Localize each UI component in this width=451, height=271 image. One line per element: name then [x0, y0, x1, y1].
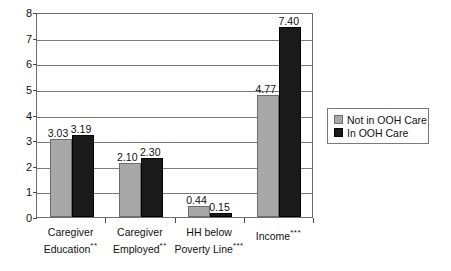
legend-swatch-icon [334, 115, 343, 124]
bar-not-in-ooh-care [188, 206, 210, 217]
y-axis-tick-label: 2 [18, 161, 32, 172]
category-label-line: Education** [36, 239, 105, 256]
bar-in-ooh-care [210, 213, 232, 217]
legend-item: Not in OOH Care [334, 113, 422, 126]
x-axis-category-label: HH belowPoverty Line*** [175, 226, 244, 256]
bar-value-label: 4.77 [255, 84, 276, 95]
x-axis-tick-mark [313, 218, 314, 223]
bar-value-label: 7.40 [278, 16, 299, 27]
x-axis-tick-mark [175, 218, 176, 223]
significance-marker: ** [160, 241, 167, 250]
category-label-line: Income*** [244, 226, 313, 243]
y-axis-tick-mark [33, 90, 37, 91]
legend-label: Not in OOH Care [347, 114, 427, 126]
bar-value-label: 2.10 [117, 152, 138, 163]
significance-marker: ** [90, 241, 97, 250]
bar-value-label: 0.44 [186, 195, 207, 206]
bar-not-in-ooh-care [257, 95, 279, 217]
y-axis-tick-mark [33, 13, 37, 14]
legend-label: In OOH Care [347, 127, 408, 139]
bar-chart: 012345678 3.033.192.102.300.440.154.777.… [0, 0, 451, 271]
y-axis-tick-label: 7 [18, 33, 32, 44]
y-axis-tick-mark [33, 64, 37, 65]
category-label-line: Caregiver [105, 226, 174, 239]
y-axis-tick-mark [33, 192, 37, 193]
category-label-line: HH below [175, 226, 244, 239]
y-axis-tick-mark [33, 218, 37, 219]
significance-marker: *** [290, 228, 301, 237]
category-label-line: Employed** [105, 239, 174, 256]
y-axis-tick-label: 5 [18, 84, 32, 95]
x-axis-tick-mark [105, 218, 106, 223]
y-axis-tick-label: 6 [18, 59, 32, 70]
y-axis-tick-label: 3 [18, 136, 32, 147]
bar-value-label: 3.19 [71, 124, 92, 135]
legend-swatch-icon [334, 128, 343, 137]
y-axis-tick-label: 1 [18, 187, 32, 198]
legend: Not in OOH CareIn OOH Care [327, 108, 429, 144]
y-axis-tick-mark [33, 116, 37, 117]
significance-marker: *** [233, 241, 244, 250]
x-axis-category-label: Income*** [244, 226, 313, 243]
category-label-line: Caregiver [36, 226, 105, 239]
y-axis-tick-mark [33, 39, 37, 40]
bar-not-in-ooh-care [119, 163, 141, 217]
x-axis-tick-mark [244, 218, 245, 223]
x-axis-category-label: CaregiverEducation** [36, 226, 105, 256]
bar-not-in-ooh-care [50, 139, 72, 217]
category-label-line: Poverty Line*** [175, 239, 244, 256]
plot-area: 3.033.192.102.300.440.154.777.40 [36, 13, 313, 218]
y-axis-tick-mark [33, 141, 37, 142]
y-axis-tick-label: 0 [18, 213, 32, 224]
y-axis-tick-label: 8 [18, 8, 32, 19]
y-axis: 012345678 [14, 13, 32, 218]
bar-in-ooh-care [141, 158, 163, 217]
gridline [37, 40, 312, 41]
bar-value-label: 3.03 [48, 128, 69, 139]
y-axis-tick-mark [33, 167, 37, 168]
legend-item: In OOH Care [334, 126, 422, 139]
bar-in-ooh-care [72, 135, 94, 217]
y-axis-tick-label: 4 [18, 110, 32, 121]
bar-value-label: 0.15 [209, 202, 230, 213]
bar-in-ooh-care [279, 27, 301, 217]
bar-value-label: 2.30 [140, 147, 161, 158]
x-axis-category-label: CaregiverEmployed** [105, 226, 174, 256]
gridline [37, 65, 312, 66]
